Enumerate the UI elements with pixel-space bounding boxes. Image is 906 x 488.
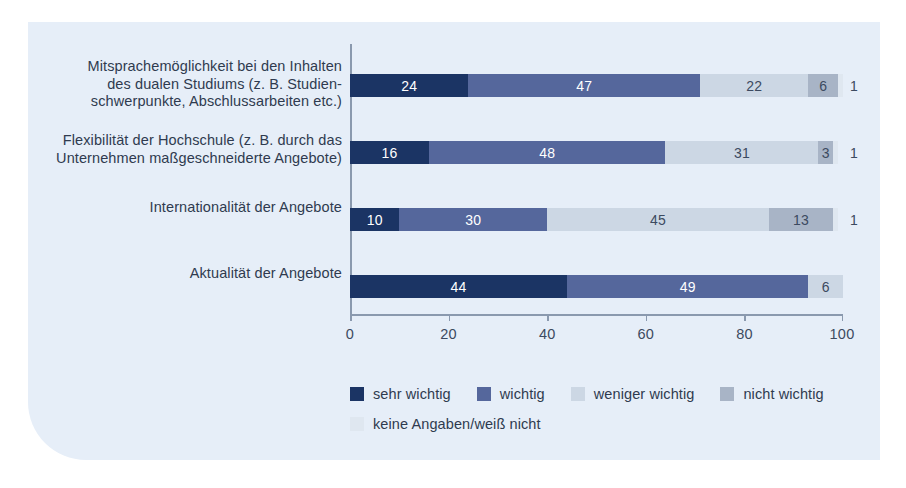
segment-value: 44 <box>450 280 466 294</box>
segment-value: 16 <box>381 146 397 160</box>
stacked-bar[interactable]: 44 49 6 <box>350 275 843 298</box>
legend-row-2: keine Angaben/weiß nicht <box>350 412 870 436</box>
bar-segment-sehr-wichtig[interactable]: 10 <box>350 208 399 231</box>
legend-swatch-icon <box>350 387 364 401</box>
chart-card: Mitsprachemöglichkeit bei den Inhalten d… <box>28 22 880 460</box>
x-tick-label: 0 <box>346 326 354 342</box>
segment-value: 13 <box>793 213 809 227</box>
segment-value: 47 <box>576 79 592 93</box>
category-label-column: Mitsprachemöglichkeit bei den Inhalten d… <box>28 44 342 334</box>
legend-item-weniger-wichtig[interactable]: weniger wichtig <box>571 386 695 402</box>
plot-area: 0 20 40 60 80 100 24 47 22 <box>350 44 843 334</box>
segment-value: 31 <box>734 146 750 160</box>
legend-label: wichtig <box>500 386 545 402</box>
bar-segment-weniger-wichtig[interactable]: 31 <box>665 141 818 164</box>
x-axis-line <box>350 314 843 316</box>
segment-value: 6 <box>819 79 827 93</box>
bar-segment-sehr-wichtig[interactable]: 24 <box>350 74 468 97</box>
legend-row-1: sehr wichtig wichtig weniger wichtig nic… <box>350 382 870 406</box>
bar-segment-weniger-wichtig[interactable]: 22 <box>700 74 809 97</box>
x-tick-label: 40 <box>539 326 556 342</box>
x-tick-20 <box>449 314 451 321</box>
legend-item-sehr-wichtig[interactable]: sehr wichtig <box>350 386 451 402</box>
x-tick-40 <box>547 314 549 321</box>
category-label: Internationalität der Angebote <box>42 199 342 217</box>
bar-segment-wichtig[interactable]: 47 <box>468 74 700 97</box>
category-label: Mitsprachemöglichkeit bei den Inhalten d… <box>42 58 342 111</box>
chart-legend: sehr wichtig wichtig weniger wichtig nic… <box>350 382 870 442</box>
bar-segment-keine-angaben[interactable] <box>833 141 838 164</box>
segment-value: 45 <box>650 213 666 227</box>
legend-swatch-icon <box>477 387 491 401</box>
segment-value: 24 <box>401 79 417 93</box>
legend-item-wichtig[interactable]: wichtig <box>477 386 545 402</box>
x-tick-0 <box>350 314 352 321</box>
bar-segment-nicht-wichtig[interactable]: 13 <box>769 208 833 231</box>
stacked-bar[interactable]: 16 48 31 3 <box>350 141 838 164</box>
bar-segment-keine-angaben[interactable] <box>833 208 838 231</box>
legend-label: weniger wichtig <box>594 386 695 402</box>
bar-segment-sehr-wichtig[interactable]: 44 <box>350 275 567 298</box>
legend-swatch-icon <box>571 387 585 401</box>
bar-segment-wichtig[interactable]: 49 <box>567 275 809 298</box>
legend-item-nicht-wichtig[interactable]: nicht wichtig <box>720 386 823 402</box>
x-tick-label: 100 <box>830 326 855 342</box>
segment-value: 22 <box>746 79 762 93</box>
x-tick-label: 60 <box>638 326 655 342</box>
x-tick-label: 80 <box>736 326 753 342</box>
x-tick-100 <box>842 314 844 321</box>
legend-item-keine-angaben[interactable]: keine Angaben/weiß nicht <box>350 416 541 432</box>
bar-segment-weniger-wichtig[interactable]: 45 <box>547 208 769 231</box>
segment-value: 10 <box>367 213 383 227</box>
legend-label: sehr wichtig <box>373 386 451 402</box>
segment-value-outside: 1 <box>843 141 858 164</box>
segment-value: 30 <box>465 213 481 227</box>
bar-segment-weniger-wichtig[interactable]: 6 <box>808 275 843 298</box>
segment-value: 48 <box>539 146 555 160</box>
chart-screenshot: Mitsprachemöglichkeit bei den Inhalten d… <box>0 0 906 488</box>
bar-segment-sehr-wichtig[interactable]: 16 <box>350 141 429 164</box>
bar-segment-nicht-wichtig[interactable]: 3 <box>818 141 833 164</box>
bar-segment-nicht-wichtig[interactable]: 6 <box>808 74 838 97</box>
category-label: Aktualität der Angebote <box>42 265 342 283</box>
legend-label: keine Angaben/weiß nicht <box>373 416 541 432</box>
bar-segment-wichtig[interactable]: 30 <box>399 208 547 231</box>
legend-label: nicht wichtig <box>743 386 823 402</box>
segment-value: 49 <box>680 280 696 294</box>
stacked-bar[interactable]: 24 47 22 6 <box>350 74 843 97</box>
segment-value-outside: 1 <box>843 74 858 97</box>
bar-segment-wichtig[interactable]: 48 <box>429 141 666 164</box>
stacked-bar[interactable]: 10 30 45 13 <box>350 208 838 231</box>
x-tick-60 <box>646 314 648 321</box>
legend-swatch-icon <box>350 417 364 431</box>
x-tick-80 <box>744 314 746 321</box>
legend-swatch-icon <box>720 387 734 401</box>
segment-value-outside: 1 <box>843 208 858 231</box>
category-label: Flexibilität der Hochschule (z. B. durch… <box>42 132 342 167</box>
segment-value: 6 <box>822 280 830 294</box>
x-tick-label: 20 <box>440 326 457 342</box>
segment-value: 3 <box>822 146 830 160</box>
